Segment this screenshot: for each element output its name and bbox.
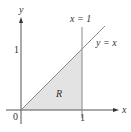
line-y-equals-x-label: y = x [95,37,117,48]
x-axis-arrow-icon [113,108,119,112]
region-diagram: y x 0 1 1 x = 1 y = x R [0,0,131,132]
x-axis-label: x [121,104,127,115]
x-tick-label: 1 [80,112,85,123]
origin-label: 0 [13,111,18,122]
y-tick-label: 1 [14,44,19,55]
y-axis-arrow-icon [19,17,23,23]
y-axis-label: y [18,4,24,15]
region-label: R [55,88,62,99]
line-x-equals-1-label: x = 1 [69,13,91,24]
